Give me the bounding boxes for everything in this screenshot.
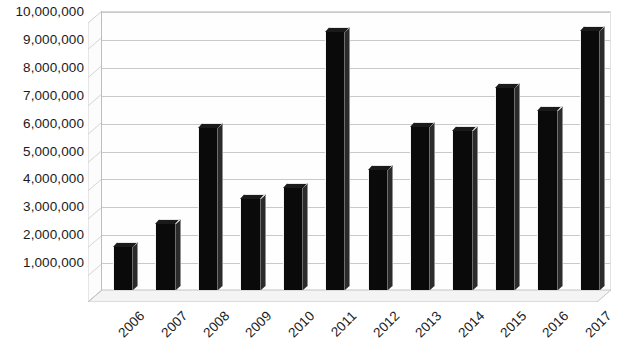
bar-side-face bbox=[303, 184, 308, 290]
x-tick-label: 2013 bbox=[412, 308, 444, 340]
bar-side-face bbox=[345, 27, 350, 290]
y-tick-label: 9,000,000 bbox=[23, 31, 84, 46]
bar bbox=[198, 128, 218, 290]
x-tick-label: 2015 bbox=[497, 308, 529, 340]
y-tick-label: 4,000,000 bbox=[23, 171, 84, 186]
bar-front-face bbox=[240, 199, 260, 290]
bar-front-face bbox=[495, 88, 515, 290]
bar bbox=[113, 247, 133, 290]
y-tick-label: 8,000,000 bbox=[23, 59, 84, 74]
x-tick-label: 2006 bbox=[115, 308, 147, 340]
bar-side-face bbox=[261, 195, 266, 290]
y-tick-label: 3,000,000 bbox=[23, 199, 84, 214]
x-tick-label: 2017 bbox=[582, 308, 614, 340]
y-tick-label: 2,000,000 bbox=[23, 227, 84, 242]
x-tick-label: 2007 bbox=[158, 308, 190, 340]
bar-front-face bbox=[537, 111, 557, 290]
x-tick-label: 2008 bbox=[200, 308, 232, 340]
bar bbox=[325, 32, 345, 290]
bar bbox=[283, 188, 303, 290]
bar-side-face bbox=[600, 26, 605, 290]
x-tick-label: 2011 bbox=[328, 308, 360, 340]
bar-front-face bbox=[325, 32, 345, 290]
y-axis: 1,000,0002,000,0003,000,0004,000,0005,00… bbox=[0, 0, 88, 352]
bar-side-face bbox=[515, 83, 520, 290]
y-tick-label: 6,000,000 bbox=[23, 115, 84, 130]
bar bbox=[410, 127, 430, 290]
y-tick-label: 5,000,000 bbox=[23, 143, 84, 158]
bar-side-face bbox=[388, 166, 393, 290]
y-tick-label: 7,000,000 bbox=[23, 87, 84, 102]
y-tick-label: 1,000,000 bbox=[23, 255, 84, 270]
bar bbox=[155, 224, 175, 290]
bar-side-face bbox=[218, 124, 223, 290]
x-tick-label: 2016 bbox=[540, 308, 572, 340]
bar-side-face bbox=[133, 242, 138, 290]
bar bbox=[580, 31, 600, 290]
bar-side-face bbox=[473, 126, 478, 290]
bar-front-face bbox=[580, 31, 600, 290]
x-tick-label: 2014 bbox=[455, 308, 487, 340]
x-axis: 2006200720082009201020112012201320142015… bbox=[88, 302, 611, 352]
bar bbox=[452, 131, 472, 290]
bar-front-face bbox=[368, 170, 388, 290]
bar-front-face bbox=[452, 131, 472, 290]
bar-side-face bbox=[558, 107, 563, 290]
bar bbox=[240, 199, 260, 290]
x-tick-label: 2010 bbox=[285, 308, 317, 340]
bar-front-face bbox=[410, 127, 430, 290]
bar-front-face bbox=[283, 188, 303, 290]
bar-side-face bbox=[176, 220, 181, 290]
bar bbox=[537, 111, 557, 290]
bar-front-face bbox=[155, 224, 175, 290]
bar bbox=[495, 88, 515, 290]
x-tick-label: 2009 bbox=[243, 308, 275, 340]
bar bbox=[368, 170, 388, 290]
bars-layer bbox=[88, 11, 611, 302]
bar-chart: 1,000,0002,000,0003,000,0004,000,0005,00… bbox=[0, 0, 623, 352]
x-tick-label: 2012 bbox=[370, 308, 402, 340]
bar-side-face bbox=[430, 122, 435, 290]
bar-front-face bbox=[113, 247, 133, 290]
y-tick-label: 10,000,000 bbox=[15, 4, 84, 19]
bar-front-face bbox=[198, 128, 218, 290]
